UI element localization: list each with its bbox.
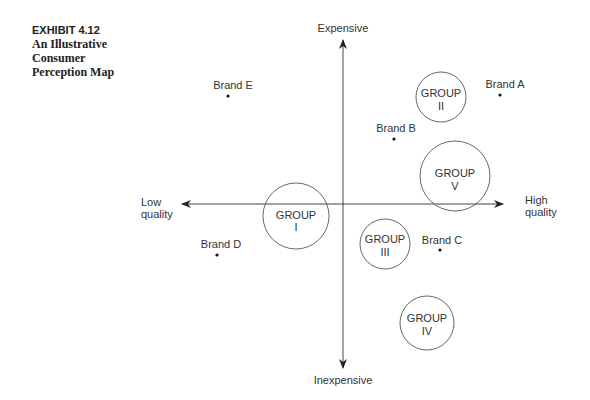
svg-text:GROUP: GROUP [435,167,475,179]
svg-text:GROUP: GROUP [407,312,447,324]
group-circle-i: GROUP I [263,183,329,249]
brand-point-e: Brand E [213,79,253,98]
svg-text:Brand C: Brand C [422,234,462,246]
group-circle-iv: GROUP IV [400,296,454,350]
svg-text:I: I [294,221,297,233]
svg-text:II: II [438,100,444,112]
svg-text:V: V [451,180,459,192]
svg-text:Brand A: Brand A [485,78,525,90]
axis-label-inexpensive: Inexpensive [314,374,373,386]
axis-label-high-quality: quality [525,206,557,218]
svg-text:GROUP: GROUP [365,233,405,245]
svg-text:Brand E: Brand E [213,79,253,91]
svg-text:GROUP: GROUP [276,209,316,221]
axis-label-low-quality: quality [141,208,173,220]
brand-point-a: Brand A [485,78,525,97]
svg-text:GROUP: GROUP [421,87,461,99]
brand-point-d: Brand D [201,238,241,257]
brand-point-c: Brand C [422,234,462,252]
perception-map: Expensive Inexpensive Low quality High q… [0,0,590,400]
group-circle-v: GROUP V [420,141,490,211]
svg-text:III: III [380,246,389,258]
group-circle-ii: GROUP II [416,72,466,122]
svg-text:Brand D: Brand D [201,238,241,250]
brand-point-b: Brand B [376,122,416,141]
svg-text:Brand B: Brand B [376,122,416,134]
axis-label-expensive: Expensive [318,22,369,34]
axis-label-high: High [525,194,548,206]
axis-label-low: Low [141,196,161,208]
svg-text:IV: IV [422,325,433,337]
group-circle-iii: GROUP III [360,219,410,269]
